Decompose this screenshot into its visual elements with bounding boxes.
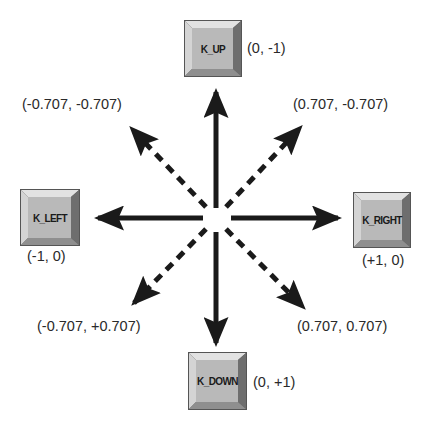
key-up-label: K_UP: [184, 43, 242, 54]
coord-down-left: (-0.707, +0.707): [37, 318, 141, 334]
coord-up-right: (0.707, -0.707): [293, 96, 388, 112]
arrow-down-right: [226, 229, 303, 307]
key-right-label: K_RIGHT: [353, 215, 411, 226]
key-left[interactable]: K_LEFT: [20, 189, 80, 246]
coord-up-left: (-0.707, -0.707): [22, 96, 122, 112]
key-right[interactable]: K_RIGHT: [353, 192, 411, 248]
key-up[interactable]: K_UP: [184, 20, 242, 77]
key-down-label: K_DOWN: [188, 376, 247, 387]
key-left-label: K_LEFT: [20, 212, 80, 223]
arrow-up-left: [132, 129, 206, 207]
key-down[interactable]: K_DOWN: [188, 352, 247, 410]
coord-down: (0, +1): [253, 374, 295, 390]
coord-up: (0, -1): [247, 40, 286, 56]
arrow-up-right: [226, 128, 300, 207]
coord-right: (+1, 0): [362, 252, 404, 268]
arrow-down-left: [134, 229, 206, 303]
coord-down-right: (0.707, 0.707): [297, 318, 387, 334]
coord-left: (-1, 0): [27, 248, 66, 264]
